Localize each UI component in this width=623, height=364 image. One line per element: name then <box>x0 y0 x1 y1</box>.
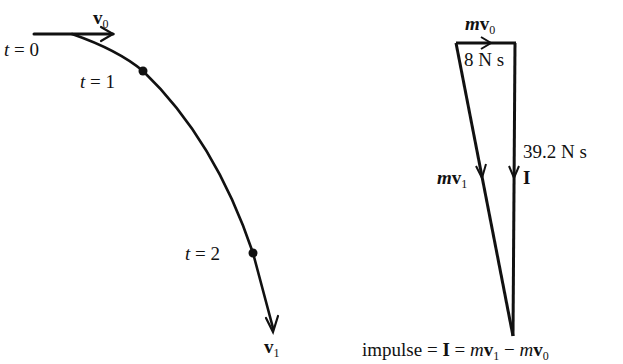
label-v0: v0 <box>93 8 109 30</box>
label-mv0: mv0 <box>465 14 495 36</box>
label-t1: t = 1 <box>80 72 115 91</box>
impulse-side <box>513 43 515 336</box>
label-mv1: mv1 <box>437 168 467 190</box>
label-t0: t = 0 <box>4 40 39 59</box>
trajectory-diagram <box>34 27 278 332</box>
label-v1: v1 <box>264 337 280 359</box>
impulse-equation: impulse = I = mv1 − mv0 <box>362 340 549 362</box>
label-impulse-symbol: I <box>523 168 530 187</box>
label-t2: t = 2 <box>185 244 220 263</box>
label-impulse-value: 39.2 N s <box>523 142 587 161</box>
label-mv0-value: 8 N s <box>464 50 504 69</box>
t1-point <box>139 67 148 76</box>
t2-point <box>249 249 258 258</box>
